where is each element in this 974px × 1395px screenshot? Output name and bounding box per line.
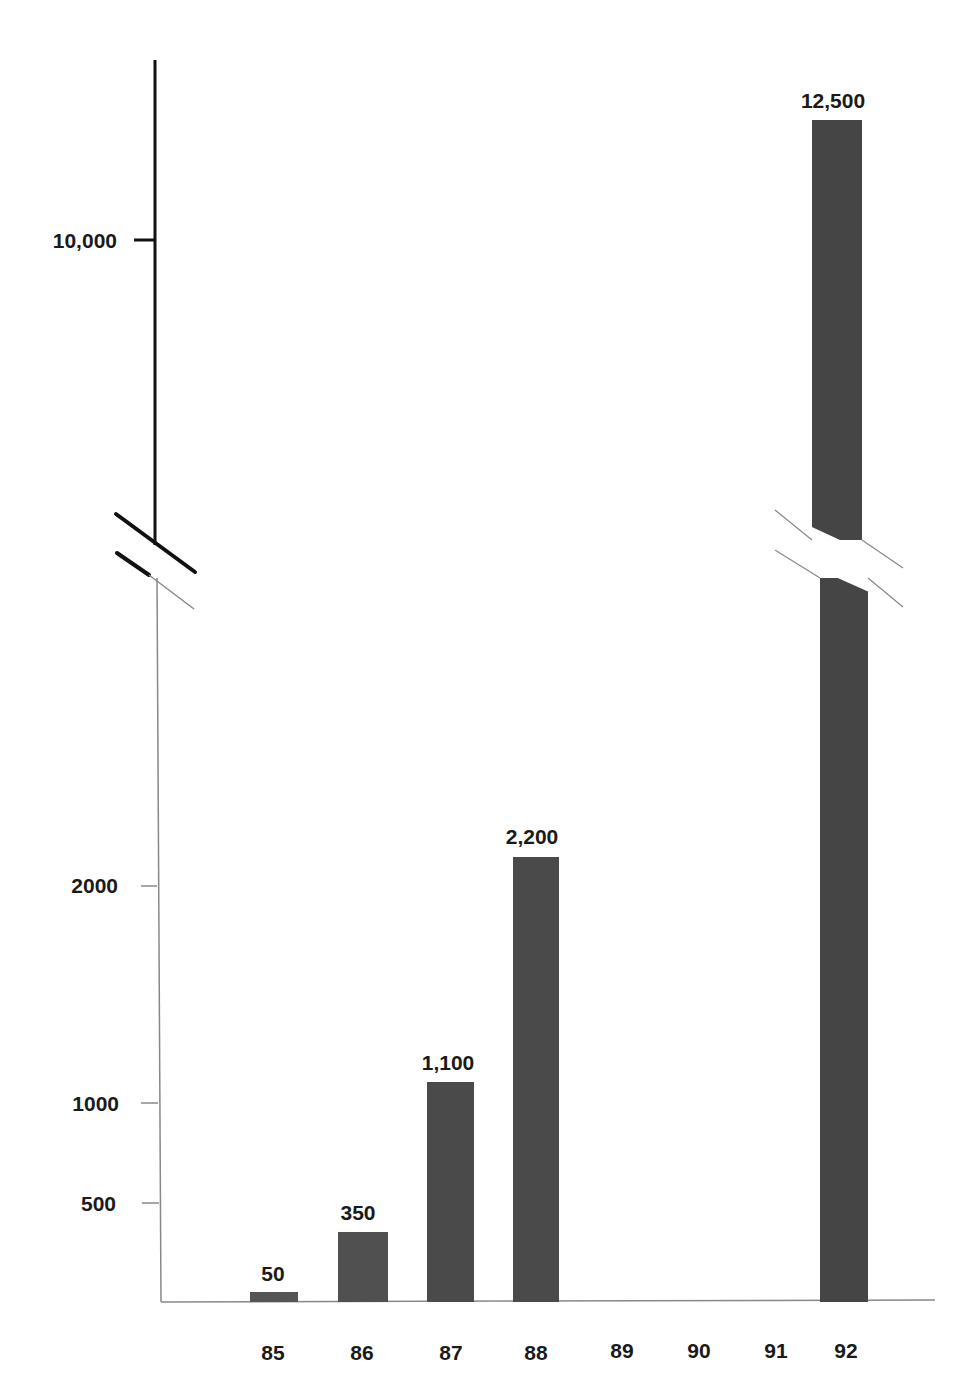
bar-87 — [427, 1082, 474, 1302]
value-label-88: 2,200 — [506, 825, 559, 848]
x-label-92: 92 — [834, 1339, 857, 1362]
x-label-90: 90 — [687, 1339, 710, 1362]
bar-92 — [812, 120, 868, 1302]
y-axis-lower — [157, 578, 161, 1302]
value-label-86: 350 — [340, 1201, 375, 1224]
y-tick-label-500: 500 — [81, 1192, 116, 1215]
x-label-85: 85 — [261, 1341, 285, 1364]
value-label-92: 12,500 — [801, 89, 865, 112]
y-tick-label-1000: 1000 — [72, 1092, 119, 1115]
value-label-87: 1,100 — [422, 1051, 475, 1074]
x-label-86: 86 — [350, 1341, 373, 1364]
value-label-85: 50 — [261, 1262, 284, 1285]
x-label-87: 87 — [439, 1341, 462, 1364]
bar-88 — [513, 857, 559, 1302]
y-tick-label-2000: 2000 — [71, 874, 118, 897]
x-label-88: 88 — [524, 1341, 548, 1364]
bar-chart: 10,000 2000 1000 500 50 350 1,100 2,200 … — [0, 0, 974, 1395]
x-label-91: 91 — [764, 1339, 788, 1362]
y-tick-label-10000: 10,000 — [53, 229, 117, 252]
bar-86 — [338, 1232, 388, 1302]
x-label-89: 89 — [610, 1339, 633, 1362]
bar-85 — [250, 1292, 298, 1302]
